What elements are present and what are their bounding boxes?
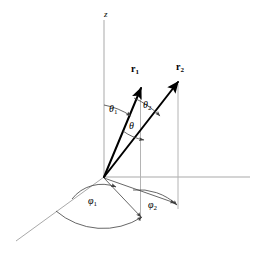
vector-r1-arrow — [104, 88, 141, 177]
phi1-label-subscript: 1 — [94, 200, 98, 208]
theta1-label-subscript: 1 — [114, 108, 118, 116]
figure-canvas — [0, 0, 254, 253]
vector-r1-label: r1 — [131, 64, 139, 76]
theta1-label: θ1 — [109, 104, 117, 116]
z-axis-label: z — [104, 10, 108, 19]
vector-r1-label-subscript: 1 — [135, 68, 139, 76]
vector-r2-label: r2 — [176, 62, 184, 74]
theta-label-base: θ — [129, 120, 134, 131]
y-axis-line — [16, 177, 104, 241]
ground-projection-group — [104, 178, 175, 217]
spherical-coordinates-figure: z r1 r2 θ1 θ2 θ φ1 φ2 — [0, 0, 254, 253]
phi2-label-subscript: 2 — [154, 204, 158, 212]
phi1-label: φ1 — [88, 196, 97, 208]
theta2-label-subscript: 2 — [148, 104, 152, 112]
phi2-arc-inner — [56, 211, 142, 228]
r1-ground-ray — [104, 178, 141, 217]
r2-ground-ray — [104, 178, 175, 203]
theta-label: θ — [129, 121, 134, 133]
theta2-label: θ2 — [143, 100, 151, 112]
vector-r2-label-subscript: 2 — [180, 66, 184, 74]
phi2-label: φ2 — [148, 200, 157, 212]
